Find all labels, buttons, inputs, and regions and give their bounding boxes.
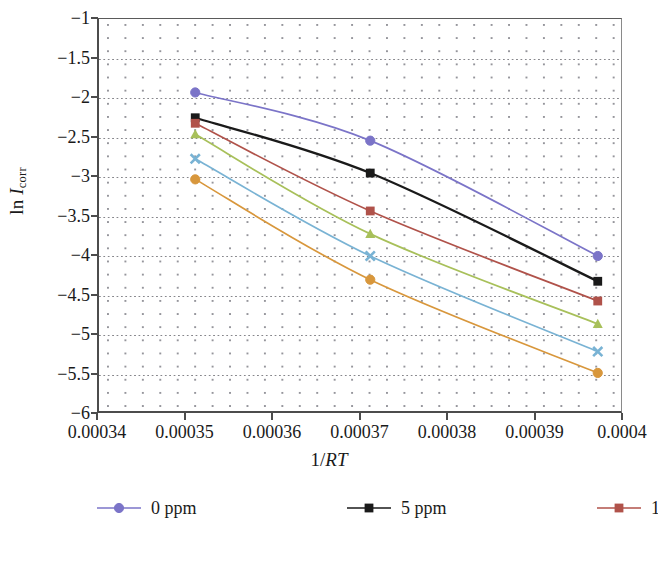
legend-item-0-ppm[interactable]: 0 ppm — [96, 497, 346, 519]
y-tick-mark — [91, 175, 98, 177]
y-tick-label: −3.5 — [46, 207, 90, 225]
data-point-marker — [593, 251, 602, 260]
x-tick-label: 0.00037 — [330, 423, 389, 443]
series-line — [195, 123, 598, 301]
legend-label: 0 ppm — [151, 499, 197, 517]
y-tick-label: −5 — [46, 325, 90, 343]
series-line — [195, 134, 598, 324]
data-point-marker — [191, 175, 200, 184]
chart-figure: ln Icorr −1−1.5−2−2.5−3−3.5−4−4.5−5−5.5−… — [0, 0, 658, 562]
series-line — [195, 179, 598, 373]
x-tick-mark — [359, 413, 361, 420]
y-axis-title-subscript: corr — [15, 167, 29, 188]
data-point-marker — [593, 347, 602, 356]
data-point-marker — [191, 119, 200, 128]
series-100-ppm — [191, 175, 603, 378]
data-point-marker — [366, 136, 375, 145]
y-axis-tick-labels: −1−1.5−2−2.5−3−3.5−4−4.5−5−5.5−6 — [42, 0, 90, 562]
x-tick-mark — [534, 413, 536, 420]
y-tick-mark — [91, 215, 98, 217]
data-point-marker — [366, 169, 375, 178]
x-tick-mark — [96, 413, 98, 420]
series-10-ppm — [191, 119, 602, 306]
x-tick-label: 0.00036 — [243, 423, 302, 443]
y-tick-label: −6 — [46, 404, 90, 422]
y-tick-mark — [91, 96, 98, 98]
data-point-marker — [191, 154, 200, 163]
data-point-marker — [191, 88, 200, 97]
y-tick-mark — [91, 254, 98, 256]
series-line — [195, 159, 598, 352]
legend-swatch-icon — [596, 500, 642, 516]
y-tick-label: −4.5 — [46, 286, 90, 304]
legend-swatch-icon — [96, 500, 142, 516]
series-line — [195, 118, 598, 282]
x-tick-label: 0.00035 — [155, 423, 214, 443]
legend-item-5-ppm[interactable]: 5 ppm — [346, 497, 596, 519]
y-tick-label: −1 — [46, 9, 90, 27]
x-tick-mark — [271, 413, 273, 420]
data-point-marker — [366, 275, 375, 284]
x-axis-title: 1/RT — [0, 449, 658, 471]
x-tick-mark — [184, 413, 186, 420]
y-tick-label: −1.5 — [46, 49, 90, 67]
data-point-marker — [114, 503, 123, 512]
data-point-marker — [593, 368, 602, 377]
series-25-ppm — [190, 129, 603, 328]
y-tick-mark — [91, 136, 98, 138]
y-axis-title-prefix: ln — [6, 195, 27, 215]
x-tick-label: 0.00038 — [418, 423, 477, 443]
legend-label: 10 ppm — [651, 499, 658, 517]
y-tick-label: −2 — [46, 88, 90, 106]
series-5-ppm — [191, 113, 602, 285]
series-0-ppm — [191, 88, 603, 261]
series-layer — [99, 19, 622, 413]
series-line — [195, 92, 598, 256]
data-point-marker — [593, 297, 602, 306]
data-point-marker — [615, 504, 624, 513]
x-tick-mark — [621, 413, 623, 420]
x-axis-title-prefix: 1/ — [311, 449, 326, 470]
x-axis-title-italic: RT — [325, 449, 347, 470]
y-tick-label: −2.5 — [46, 128, 90, 146]
legend-label: 5 ppm — [401, 499, 447, 517]
legend-swatch-icon — [346, 500, 392, 516]
data-point-marker — [593, 277, 602, 286]
y-tick-label: −5.5 — [46, 365, 90, 383]
x-tick-mark — [446, 413, 448, 420]
data-point-marker — [365, 504, 374, 513]
y-tick-mark — [91, 333, 98, 335]
data-point-marker — [190, 129, 200, 138]
y-axis-title: ln Icorr — [6, 141, 28, 241]
data-point-marker — [366, 251, 375, 260]
x-tick-label: 0.00034 — [68, 423, 127, 443]
y-tick-mark — [91, 373, 98, 375]
chart-legend: 0 ppm5 ppm10 ppm25 ppm50 ppm100 ppm — [96, 497, 596, 519]
y-tick-label: −4 — [46, 246, 90, 264]
plot-area — [97, 18, 622, 413]
y-tick-mark — [91, 17, 98, 19]
y-tick-mark — [91, 57, 98, 59]
y-tick-mark — [91, 294, 98, 296]
data-point-marker — [365, 229, 375, 238]
legend-item-10-ppm[interactable]: 10 ppm — [596, 497, 658, 519]
y-tick-label: −3 — [46, 167, 90, 185]
data-point-marker — [366, 207, 375, 216]
y-axis-title-italic: I — [6, 188, 27, 195]
x-tick-label: 0.00039 — [505, 423, 564, 443]
x-tick-label: 0.0004 — [597, 423, 647, 443]
